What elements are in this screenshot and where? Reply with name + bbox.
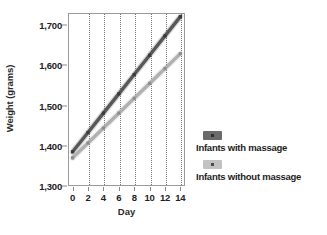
data-point-marker — [148, 54, 151, 57]
y-tick-mark — [62, 65, 67, 66]
x-tick-mark — [88, 187, 89, 191]
x-tick-mark — [165, 187, 166, 191]
x-tick-mark — [180, 187, 181, 191]
x-tick-label: 12 — [160, 192, 170, 203]
data-point-marker — [179, 52, 182, 55]
y-tick-mark — [62, 186, 67, 187]
legend-label: Infants with massage — [196, 142, 324, 153]
data-point-marker — [163, 34, 166, 37]
legend-label: Infants without massage — [196, 171, 324, 182]
data-point-marker — [117, 112, 120, 115]
data-point-marker — [179, 15, 182, 18]
y-tick-mark — [62, 145, 67, 146]
data-point-marker — [71, 156, 74, 159]
data-point-marker — [102, 112, 105, 115]
x-tick-label: 4 — [101, 192, 106, 203]
chart-figure: Weight (grams) 1,3001,4001,5001,6001,700… — [0, 0, 327, 235]
chart-legend: Infants with massageInfants without mass… — [196, 131, 324, 189]
legend-marker-dot-icon — [211, 134, 214, 137]
data-point-marker — [133, 73, 136, 76]
x-tick-label: 8 — [132, 192, 137, 203]
y-tick-mark — [62, 25, 67, 26]
x-tick-label: 10 — [144, 192, 154, 203]
legend-entry: Infants without massage — [196, 160, 324, 182]
y-tick-mark — [62, 105, 67, 106]
x-axis-title: Day — [68, 206, 185, 217]
x-tick-mark — [150, 187, 151, 191]
x-tick-label: 2 — [85, 192, 90, 203]
x-tick-label: 6 — [116, 192, 121, 203]
data-point-marker — [86, 141, 89, 144]
data-point-marker — [163, 67, 166, 70]
data-point-marker — [117, 92, 120, 95]
data-point-marker — [148, 82, 151, 85]
x-tick-mark — [134, 187, 135, 191]
legend-swatch-icon — [203, 160, 222, 169]
legend-swatch-icon — [203, 131, 222, 140]
x-tick-mark — [119, 187, 120, 191]
data-point-marker — [102, 126, 105, 129]
data-point-marker — [86, 131, 89, 134]
x-tick-mark — [73, 187, 74, 191]
x-tick-mark — [103, 187, 104, 191]
data-point-marker — [133, 97, 136, 100]
x-tick-label: 0 — [70, 192, 75, 203]
x-tick-label: 14 — [175, 192, 185, 203]
legend-marker-dot-icon — [211, 163, 214, 166]
legend-entry: Infants with massage — [196, 131, 324, 153]
